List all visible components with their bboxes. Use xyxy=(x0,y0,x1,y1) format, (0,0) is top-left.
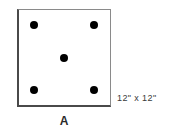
dot-bottom-right xyxy=(90,86,98,94)
dimension-label: 12" x 12" xyxy=(117,93,157,103)
figure-diagram: 12" x 12" A xyxy=(0,0,180,140)
dot-top-right xyxy=(90,21,98,29)
dot-center xyxy=(60,54,68,62)
figure-label: A xyxy=(17,114,111,128)
square-tile xyxy=(17,9,111,107)
dot-top-left xyxy=(30,21,38,29)
dot-bottom-left xyxy=(30,86,38,94)
